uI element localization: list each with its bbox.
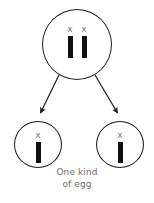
caption-line-1: One kind (0, 167, 154, 179)
chromosome-bar-egg-left (36, 142, 41, 163)
gamete-diagram: X X X (0, 0, 154, 203)
arrow-to-left-egg (41, 75, 60, 113)
chromosome-bar-egg-right (118, 142, 123, 163)
egg-left-chromosome-group: X (15, 132, 61, 163)
chromosome-label-x-egg-right: X (118, 132, 123, 140)
egg-right-chromosome-group: X (97, 132, 143, 163)
arrow-to-right-egg (95, 75, 118, 113)
egg-cell-left: X (14, 121, 62, 168)
chromosome-x-egg-right: X (118, 132, 123, 163)
chromosome-label-x-egg-left: X (36, 132, 41, 140)
egg-cell-right: X (96, 121, 144, 168)
chromosome-x-egg-left: X (36, 132, 41, 163)
caption-line-2: of egg (0, 179, 154, 191)
diagram-caption: One kind of egg (0, 167, 154, 190)
